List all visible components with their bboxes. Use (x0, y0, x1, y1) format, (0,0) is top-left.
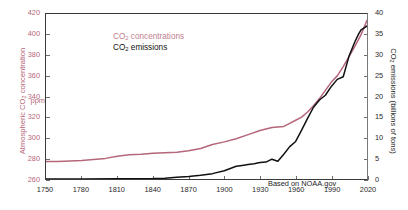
left-tick-label: 360 (14, 72, 40, 80)
right-tick-label: 5 (375, 155, 401, 163)
right-tick-label: 35 (375, 30, 401, 38)
plot-area: CO2 concentrations CO2 emissions Based o… (45, 13, 368, 180)
legend-emissions-prefix: CO (113, 43, 125, 52)
chart-legend: CO2 concentrations CO2 emissions (113, 31, 184, 53)
emissions-line (46, 26, 367, 179)
co2-chart-figure: Atmospheric CO2 concentration CO2 emissi… (0, 0, 408, 210)
left-tick-label: 340 (14, 93, 40, 101)
x-tick-label: 1870 (169, 186, 209, 194)
right-tick-label: 25 (375, 72, 401, 80)
source-attribution: Based on NOAA.gov (268, 180, 336, 188)
legend-concentrations-suffix: concentrations (129, 32, 185, 41)
right-tick-label: 10 (375, 134, 401, 142)
right-tick-label: 40 (375, 9, 401, 17)
left-tick-label: 380 (14, 51, 40, 59)
x-tick-label: 1840 (133, 186, 173, 194)
series-lines (46, 14, 367, 179)
left-tick-label: 300 (14, 134, 40, 142)
right-tick-label: 0 (375, 176, 401, 184)
legend-emissions-suffix: emissions (129, 43, 168, 52)
x-tick-label: 1750 (25, 186, 65, 194)
left-axis-title-prefix: Atmospheric CO (18, 99, 27, 155)
left-tick-label: 420 (14, 9, 40, 17)
right-tick-label: 30 (375, 51, 401, 59)
x-tick-label: 2020 (348, 186, 388, 194)
left-tick-label: 400 (14, 30, 40, 38)
x-tick-label: 1900 (204, 186, 244, 194)
left-tick-mark (46, 180, 50, 181)
left-tick-label: 280 (14, 155, 40, 163)
x-tick-label: 1810 (97, 186, 137, 194)
legend-concentrations-prefix: CO (113, 32, 125, 41)
right-tick-label: 20 (375, 93, 401, 101)
x-tick-label: 1780 (61, 186, 101, 194)
legend-item-concentrations: CO2 concentrations (113, 31, 184, 42)
x-tick-mark (368, 176, 369, 180)
left-tick-label: 320 (14, 113, 40, 121)
left-tick-label: 260 (14, 176, 40, 184)
right-tick-label: 15 (375, 113, 401, 121)
legend-item-emissions: CO2 emissions (113, 42, 184, 53)
right-tick-mark (364, 180, 368, 181)
concentration-line (46, 20, 367, 161)
